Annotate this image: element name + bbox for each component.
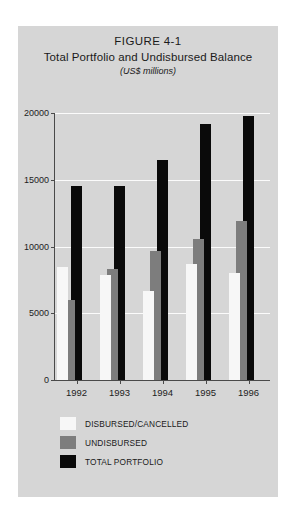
x-axis-tick-label: 1994: [152, 387, 173, 398]
plot-area: 05000100001500020000 1992199319941995199…: [55, 113, 270, 380]
bar-disbursed-cancelled: [229, 273, 240, 380]
x-axis-tick: [163, 380, 164, 384]
y-axis-tick-label: 5000: [29, 308, 49, 318]
legend-label: TOTAL PORTFOLIO: [85, 457, 163, 467]
y-axis-tick: [51, 180, 55, 181]
x-axis-tick: [206, 380, 207, 384]
chart-subtitle: Total Portfolio and Undisbursed Balance: [18, 49, 278, 65]
x-axis-tick: [120, 380, 121, 384]
chart-title: FIGURE 4-1: [18, 34, 278, 49]
figure-panel: FIGURE 4-1 Total Portfolio and Undisburs…: [18, 26, 278, 497]
legend-item: DISBURSED/CANCELLED: [60, 414, 260, 433]
y-axis-tick-label: 15000: [24, 175, 49, 185]
legend-swatch: [60, 455, 76, 468]
legend-item: UNDISBURSED: [60, 433, 260, 452]
legend-swatch: [60, 417, 76, 430]
x-axis-tick: [77, 380, 78, 384]
gridline: [55, 113, 270, 114]
legend-label: DISBURSED/CANCELLED: [85, 419, 188, 429]
x-axis-tick-label: 1993: [109, 387, 130, 398]
legend-swatch: [60, 436, 76, 449]
bar-disbursed-cancelled: [143, 291, 154, 380]
x-axis-tick-label: 1996: [238, 387, 259, 398]
legend-item: TOTAL PORTFOLIO: [60, 452, 260, 471]
title-block: FIGURE 4-1 Total Portfolio and Undisburs…: [18, 34, 278, 78]
chart-legend: DISBURSED/CANCELLEDUNDISBURSEDTOTAL PORT…: [60, 414, 260, 471]
y-axis-tick: [51, 313, 55, 314]
bar-disbursed-cancelled: [186, 264, 197, 380]
bar-disbursed-cancelled: [57, 267, 68, 380]
y-axis-tick-label: 20000: [24, 108, 49, 118]
legend-label: UNDISBURSED: [85, 438, 147, 448]
y-axis-tick-label: 0: [44, 375, 49, 385]
x-axis-tick: [249, 380, 250, 384]
x-axis-tick-label: 1992: [66, 387, 87, 398]
y-axis-tick: [51, 113, 55, 114]
y-axis-tick: [51, 380, 55, 381]
y-axis-tick-label: 10000: [24, 242, 49, 252]
bar-disbursed-cancelled: [100, 275, 111, 380]
y-axis-tick: [51, 247, 55, 248]
chart-units-label: (US$ millions): [18, 65, 278, 78]
x-axis-tick-label: 1995: [195, 387, 216, 398]
